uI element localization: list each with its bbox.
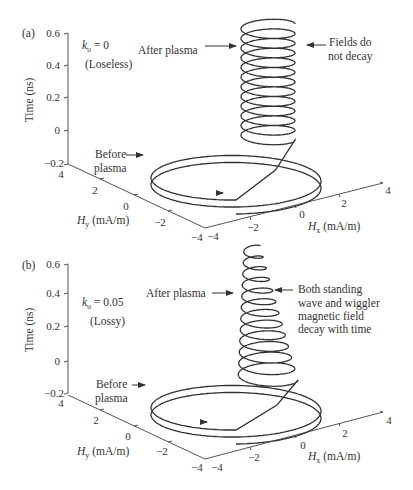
tick-label: −4 — [191, 231, 203, 243]
after-plasma-label: After plasma — [138, 44, 198, 57]
tick-label: 2 — [341, 197, 347, 209]
tick-label: 0.6 — [46, 27, 60, 39]
hy-axis-label: Hy (mA/m) — [76, 445, 129, 460]
before-plasma-label: plasma — [95, 392, 128, 405]
condition-label: (Loseless) — [85, 58, 132, 71]
tick-label: 0 — [123, 200, 129, 212]
tick-label: −4 — [211, 461, 223, 473]
hy-axis-ticks: 4 2 0 −2 −4 — [58, 397, 203, 473]
tick-label: −2 — [248, 451, 260, 463]
note-line: Fields do — [329, 36, 372, 48]
time-axis-ticks: 0.6 0.4 0.2 0 −0.2 — [44, 258, 68, 399]
note-line: magnetic field — [298, 310, 364, 323]
tick-label: 0.2 — [46, 91, 60, 103]
hx-axis-label: Hx (mA/m) — [307, 450, 360, 465]
hx-axis-ticks: −4 −2 0 2 4 — [211, 411, 392, 473]
field-trajectory-curve — [151, 245, 321, 444]
panel-b: (b) 0.6 0.4 0.2 0 −0.2 Time (ns) 4 2 0 −… — [22, 245, 392, 473]
tick-label: −4 — [207, 230, 219, 242]
tick-label: −4 — [191, 461, 203, 473]
param-label: kυ = 0.05 — [82, 296, 124, 311]
tick-label: 4 — [58, 397, 64, 409]
tick-label: −2 — [156, 445, 168, 457]
note-line: Both standing — [298, 283, 362, 296]
tick-label: 0 — [125, 430, 131, 442]
time-axis-ticks: 0.6 0.4 0.2 0 −0.2 — [44, 27, 68, 169]
tick-label: −2 — [154, 216, 166, 228]
tick-label: 0 — [55, 124, 61, 136]
tick-label: 2 — [342, 427, 348, 439]
note-line: wave and wiggler — [298, 297, 380, 310]
tick-label: 2 — [93, 414, 99, 426]
tick-label: 4 — [386, 414, 392, 426]
after-plasma-label: After plasma — [146, 287, 206, 300]
before-plasma-label: Before — [95, 148, 126, 160]
param-label: kυ = 0 — [82, 39, 109, 54]
tick-label: −2 — [247, 221, 259, 233]
hy-axis-ticks: 4 2 0 −2 −4 — [58, 168, 203, 243]
panel-label: (a) — [22, 27, 35, 40]
hy-axis-label: Hy (mA/m) — [76, 214, 129, 229]
tick-label: 0.6 — [46, 258, 60, 270]
figure-canvas: (a) 0.6 0.4 0.2 0 −0.2 Time (ns) 4 2 0 −… — [0, 0, 413, 490]
hx-axis-label: Hx (mA/m) — [307, 220, 360, 235]
panel-a: (a) 0.6 0.4 0.2 0 −0.2 Time (ns) 4 2 0 −… — [22, 19, 391, 243]
tick-label: 4 — [58, 168, 64, 180]
tick-label: 4 — [385, 184, 391, 196]
time-axis-label: Time (ns) — [23, 308, 36, 353]
tick-label: 0.4 — [46, 59, 60, 71]
panel-label: (b) — [22, 259, 36, 272]
before-plasma-label: Before — [96, 378, 127, 390]
tick-label: 0.2 — [46, 320, 60, 332]
tick-label: 2 — [92, 184, 98, 196]
time-axis-label: Time (ns) — [23, 78, 36, 123]
before-plasma-label: plasma — [94, 162, 127, 175]
tick-label: 0.4 — [46, 287, 60, 299]
tick-label: 0 — [55, 355, 61, 367]
note-line: decay with time — [298, 323, 371, 336]
hx-axis-ticks: −4 −2 0 2 4 — [207, 182, 391, 242]
note-line: not decay — [328, 50, 373, 63]
tick-label: 0 — [299, 208, 305, 220]
tick-label: 0 — [300, 439, 306, 451]
condition-label: (Lossy) — [90, 315, 125, 328]
